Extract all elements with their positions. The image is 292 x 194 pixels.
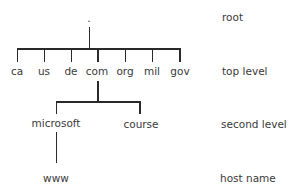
node-org: org xyxy=(116,65,133,77)
de-connector xyxy=(71,48,73,62)
node-www: www xyxy=(43,172,69,184)
gov-connector xyxy=(179,48,181,62)
mil-connector xyxy=(152,48,154,62)
node-ca: ca xyxy=(11,65,23,77)
level-label-second: second level xyxy=(221,118,287,130)
node-de: de xyxy=(64,65,77,77)
node-com: com xyxy=(86,65,108,77)
root-connector xyxy=(89,27,91,48)
ca-connector xyxy=(17,48,19,62)
org-connector xyxy=(125,48,127,62)
second-level-bus xyxy=(56,101,140,103)
level-label-host: host name xyxy=(220,172,276,184)
level-label-top: top level xyxy=(222,65,268,77)
com-connector xyxy=(97,48,99,62)
node-us: us xyxy=(38,65,50,77)
www-connector xyxy=(56,132,58,163)
top-level-bus xyxy=(17,48,180,50)
microsoft-connector xyxy=(56,101,58,114)
node-microsoft: microsoft xyxy=(32,117,81,129)
course-connector xyxy=(139,101,141,114)
node-course: course xyxy=(123,118,158,130)
root-node: . xyxy=(87,12,90,24)
node-mil: mil xyxy=(144,65,160,77)
com-children-connector xyxy=(97,81,99,101)
us-connector xyxy=(44,48,46,62)
node-gov: gov xyxy=(170,65,189,77)
level-label-root: root xyxy=(222,11,243,23)
